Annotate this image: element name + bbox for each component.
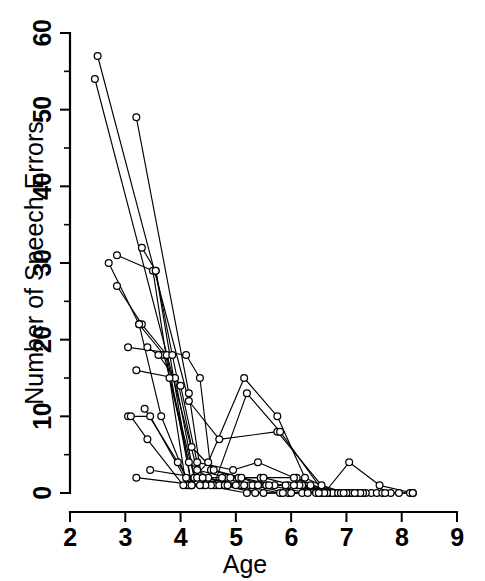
data-point-marker	[197, 375, 204, 382]
data-point-marker	[199, 474, 206, 481]
data-point-marker	[183, 474, 190, 481]
data-point-marker	[185, 398, 192, 405]
data-point-marker	[302, 474, 309, 481]
data-point-marker	[152, 267, 159, 274]
data-point-marker	[241, 375, 248, 382]
y-tick-label: 0	[28, 486, 56, 499]
data-point-marker	[376, 482, 383, 489]
data-point-marker	[274, 413, 281, 420]
data-point-marker	[244, 490, 251, 497]
data-point-marker	[177, 382, 184, 389]
x-axis-tick-labels: 23456789	[63, 523, 463, 551]
figure-container: Number of Speech Errors Age 010203040506…	[0, 0, 485, 581]
x-tick-label: 2	[63, 523, 76, 551]
data-point-marker	[188, 482, 195, 489]
data-point-marker	[147, 413, 154, 420]
data-point-marker	[238, 474, 245, 481]
data-point-marker	[194, 459, 201, 466]
y-axis-tick-labels: 0102030405060	[28, 20, 56, 500]
data-point-marker	[260, 490, 267, 497]
data-point-marker	[224, 482, 231, 489]
data-point-marker	[255, 482, 262, 489]
data-point-marker	[127, 413, 134, 420]
data-point-marker	[232, 482, 239, 489]
data-point-marker	[382, 490, 389, 497]
data-point-marker	[252, 490, 259, 497]
data-point-marker	[138, 244, 145, 251]
y-tick-label: 20	[28, 326, 56, 353]
x-tick-label: 5	[229, 523, 243, 551]
data-point-marker	[216, 436, 223, 443]
series-line	[109, 263, 413, 493]
data-point-marker	[288, 490, 295, 497]
x-tick-label: 8	[395, 523, 409, 551]
data-point-marker	[291, 474, 298, 481]
data-point-marker	[133, 474, 140, 481]
data-point-marker	[227, 474, 234, 481]
data-point-marker	[155, 352, 162, 359]
data-point-marker	[315, 490, 322, 497]
x-axis-title: Age	[223, 550, 267, 578]
y-tick-label: 40	[28, 173, 56, 200]
data-point-marker	[210, 467, 217, 474]
data-point-marker	[219, 474, 226, 481]
data-series-layer	[95, 56, 413, 493]
data-point-marker	[205, 459, 212, 466]
data-point-marker	[346, 459, 353, 466]
data-point-marker	[144, 436, 151, 443]
data-point-marker	[282, 482, 289, 489]
data-point-marker	[230, 467, 237, 474]
data-point-marker	[185, 459, 192, 466]
data-point-marker	[266, 482, 273, 489]
data-point-marker	[244, 390, 251, 397]
data-point-marker	[158, 413, 165, 420]
data-point-marker	[166, 375, 173, 382]
data-point-marker	[105, 260, 112, 267]
data-point-marker	[144, 344, 151, 351]
data-point-marker	[351, 490, 358, 497]
data-point-marker	[304, 490, 311, 497]
data-point-marker	[340, 490, 347, 497]
data-point-marker	[114, 252, 121, 259]
y-tick-label: 30	[28, 250, 56, 277]
x-tick-label: 3	[119, 523, 132, 551]
data-point-marker	[291, 482, 298, 489]
data-point-marker	[277, 428, 284, 435]
series-line	[95, 79, 410, 493]
data-point-marker	[396, 490, 403, 497]
data-point-marker	[194, 467, 201, 474]
data-point-marker	[141, 405, 148, 412]
series-line	[136, 370, 357, 493]
data-point-marker	[185, 390, 192, 397]
data-point-marker	[307, 482, 314, 489]
data-point-marker	[125, 344, 132, 351]
data-point-marker	[197, 482, 204, 489]
series-line	[136, 117, 390, 493]
data-point-marker	[260, 474, 267, 481]
data-point-marker	[409, 490, 416, 497]
data-point-marker	[241, 482, 248, 489]
data-point-marker	[91, 76, 98, 83]
x-axis-ticks	[70, 512, 457, 522]
data-point-marker	[133, 114, 140, 121]
data-point-marker	[318, 482, 325, 489]
data-point-marker	[147, 467, 154, 474]
series-line	[98, 56, 413, 493]
x-tick-label: 6	[284, 523, 297, 551]
x-tick-label: 7	[340, 523, 353, 551]
y-tick-label: 60	[28, 20, 56, 47]
x-tick-label: 4	[174, 523, 188, 551]
data-point-marker	[255, 459, 262, 466]
data-point-marker	[114, 283, 121, 290]
y-tick-label: 10	[28, 403, 56, 430]
data-point-marker	[94, 53, 101, 60]
data-point-marker	[183, 352, 190, 359]
data-point-marker	[180, 482, 187, 489]
data-point-marker	[133, 367, 140, 374]
data-point-marker	[136, 321, 143, 328]
data-point-marker	[174, 459, 181, 466]
speech-errors-scatter-line-chart: Number of Speech Errors Age 010203040506…	[0, 0, 485, 581]
y-tick-label: 50	[28, 96, 56, 123]
y-axis-ticks	[60, 33, 70, 493]
data-point-marker	[279, 490, 286, 497]
